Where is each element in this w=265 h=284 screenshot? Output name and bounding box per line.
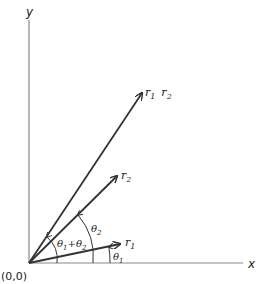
diagram-canvas: y x (0,0) r1r2 r2 r1 θ1 θ2 θ1+θ2	[0, 0, 265, 284]
arc-theta1	[109, 247, 110, 263]
vector-r2	[29, 176, 117, 263]
label-theta-sum: θ1+θ2	[57, 238, 87, 252]
label-product: r1r2	[145, 86, 172, 101]
y-axis-label: y	[25, 5, 34, 19]
origin-label: (0,0)	[1, 270, 27, 283]
x-axis-label: x	[247, 257, 256, 271]
label-r2: r2	[121, 169, 131, 184]
label-r1: r1	[125, 236, 135, 251]
label-theta2: θ2	[91, 223, 102, 237]
